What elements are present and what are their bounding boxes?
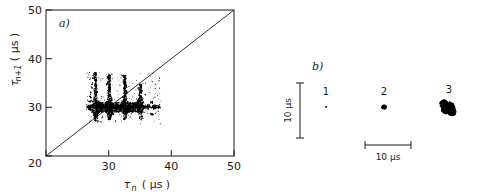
vertical-scalebar	[296, 83, 304, 138]
identity-line	[46, 10, 234, 156]
y-axis-title-sub: n+1	[14, 65, 23, 82]
horizontal-scalebar-label: 10 μs	[376, 152, 401, 162]
y-tick-label-20: 20	[28, 157, 42, 170]
vertical-scalebar-label: 10 μs	[283, 98, 293, 123]
y-tick-label-40: 40	[28, 53, 42, 66]
vertical-scalebar-label-group: 10 μs	[283, 98, 293, 123]
scatter-points-group	[86, 72, 161, 125]
cluster-label-3: 3	[446, 84, 452, 95]
x-axis-title-units: ( μs )	[142, 178, 170, 191]
cluster-label-1: 1	[323, 86, 329, 97]
y-axis-title-units: ( μs )	[8, 33, 21, 61]
x-axis-ticks	[46, 150, 234, 156]
horizontal-scalebar	[365, 141, 411, 149]
x-tick-label-50: 50	[227, 160, 241, 173]
x-axis-title-sub: n	[131, 184, 136, 192]
cluster-blob-3	[439, 99, 456, 116]
panel-a-label: a)	[59, 17, 70, 30]
cluster-label-2: 2	[381, 86, 387, 97]
panel-b-clusters: b) 10 μs 10 μs 1 2 3	[241, 0, 482, 192]
y-axis-title: τ n+1 ( μs )	[8, 33, 23, 86]
panel-a-return-map: 50 40 30 20 30 40 50 a) τ n ( μs ) τ n+1…	[0, 0, 241, 192]
cluster-blob-2	[381, 105, 387, 110]
panel-b-label: b)	[312, 60, 323, 73]
y-tick-label-50: 50	[28, 4, 42, 17]
panel-a-svg: 50 40 30 20 30 40 50 a) τ n ( μs ) τ n+1…	[0, 0, 241, 192]
x-tick-label-30: 30	[102, 160, 116, 173]
y-axis-ticks	[46, 10, 52, 156]
x-axis-title: τ n ( μs )	[124, 178, 170, 192]
y-tick-label-30: 30	[28, 101, 42, 114]
figure-container: 50 40 30 20 30 40 50 a) τ n ( μs ) τ n+1…	[0, 0, 482, 192]
cluster-blob-1	[325, 106, 328, 108]
x-tick-label-40: 40	[164, 160, 178, 173]
x-axis-title-symbol: τ	[124, 178, 131, 191]
panel-b-svg: b) 10 μs 10 μs 1 2 3	[241, 0, 482, 192]
